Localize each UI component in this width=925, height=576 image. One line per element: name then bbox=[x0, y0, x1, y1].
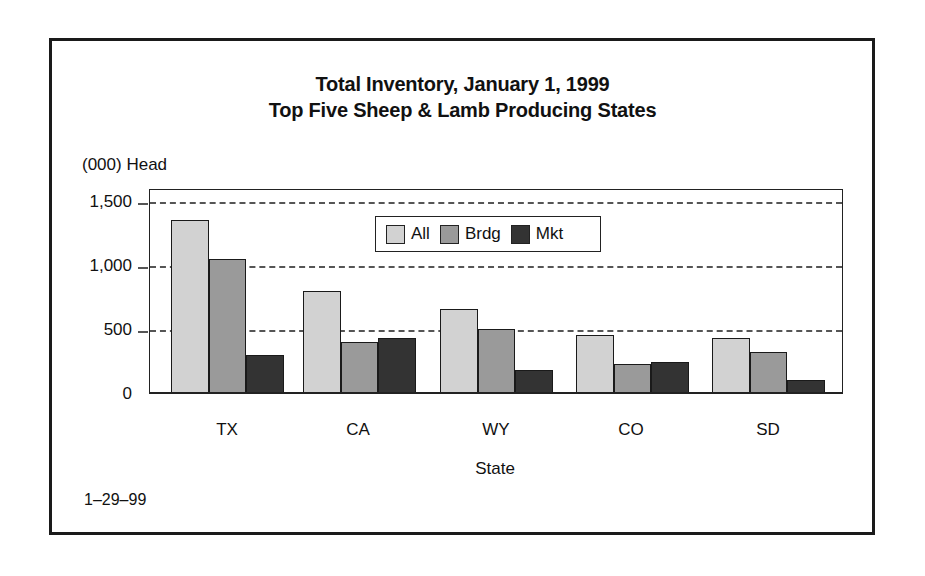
y-tick-1500: 1,500 bbox=[72, 192, 132, 212]
bar-wy-all bbox=[440, 309, 478, 393]
x-tick-ca: CA bbox=[328, 420, 388, 440]
bar-wy-mkt bbox=[515, 370, 553, 393]
bar-sd-all bbox=[712, 338, 750, 393]
bar-sd-brdg bbox=[750, 352, 788, 393]
gridline-1000 bbox=[150, 266, 842, 268]
y-tick-0: 0 bbox=[72, 384, 132, 404]
bar-tx-all bbox=[171, 220, 209, 393]
bar-co-mkt bbox=[651, 362, 689, 393]
bar-wy-brdg bbox=[478, 329, 516, 393]
legend-item-brdg: Brdg bbox=[440, 224, 501, 244]
x-tick-tx: TX bbox=[197, 420, 257, 440]
y-axis-label: (000) Head bbox=[82, 155, 167, 175]
y-tick-mark-1500 bbox=[138, 203, 148, 205]
bar-co-brdg bbox=[614, 364, 652, 393]
legend-label-brdg: Brdg bbox=[465, 224, 501, 244]
legend-swatch-brdg bbox=[440, 225, 459, 244]
legend-label-all: All bbox=[411, 224, 430, 244]
y-tick-mark-1000 bbox=[138, 267, 148, 269]
x-axis-label: State bbox=[0, 459, 925, 479]
footnote-date: 1–29–99 bbox=[84, 491, 146, 509]
y-tick-1000: 1,000 bbox=[72, 256, 132, 276]
x-axis-baseline bbox=[150, 392, 842, 394]
bar-ca-brdg bbox=[341, 342, 379, 393]
y-tick-500: 500 bbox=[72, 320, 132, 340]
bar-ca-mkt bbox=[378, 338, 416, 393]
legend-item-mkt: Mkt bbox=[511, 224, 563, 244]
bar-tx-mkt bbox=[246, 355, 284, 393]
legend-swatch-all bbox=[386, 225, 405, 244]
bar-tx-brdg bbox=[209, 259, 247, 393]
legend-label-mkt: Mkt bbox=[536, 224, 563, 244]
bar-ca-all bbox=[303, 291, 341, 393]
x-tick-sd: SD bbox=[738, 420, 798, 440]
gridline-1500 bbox=[150, 202, 842, 204]
legend-swatch-mkt bbox=[511, 225, 530, 244]
bar-co-all bbox=[576, 335, 614, 393]
x-tick-wy: WY bbox=[466, 420, 526, 440]
y-tick-mark-500 bbox=[138, 331, 148, 333]
legend-item-all: All bbox=[386, 224, 430, 244]
chart-title: Total Inventory, January 1, 1999 bbox=[0, 73, 925, 96]
chart-subtitle: Top Five Sheep & Lamb Producing States bbox=[0, 99, 925, 122]
legend: All Brdg Mkt bbox=[375, 216, 601, 252]
x-tick-co: CO bbox=[601, 420, 661, 440]
